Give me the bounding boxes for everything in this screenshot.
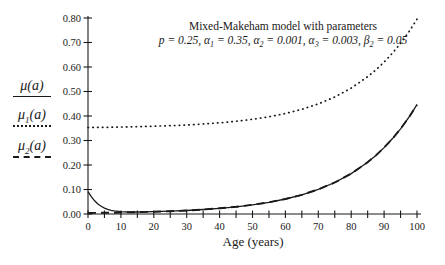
y-tick-label: 0.70 bbox=[63, 37, 81, 48]
legend-label-mu1: μ1(a) bbox=[6, 107, 58, 122]
y-tick-label: 0.30 bbox=[63, 135, 81, 146]
x-tick-label: 100 bbox=[409, 221, 425, 232]
legend-line-dotted bbox=[13, 125, 51, 127]
chart-title: Mixed-Makeham model with parameters bbox=[138, 19, 428, 33]
y-tick-label: 0.40 bbox=[63, 111, 81, 122]
legend-label-mu: μ(a) bbox=[6, 78, 58, 93]
legend-item-mu: μ(a) bbox=[6, 78, 58, 97]
y-tick-label: 0.80 bbox=[63, 13, 81, 24]
y-tick-label: 0.60 bbox=[63, 62, 81, 73]
series-mu2-curve bbox=[88, 105, 417, 213]
chart-title-block: Mixed-Makeham model with parameters p = … bbox=[138, 19, 428, 47]
x-tick-label: 80 bbox=[346, 221, 357, 232]
x-tick-label: 0 bbox=[85, 221, 90, 232]
x-tick-label: 60 bbox=[280, 221, 291, 232]
y-tick-label: 0.00 bbox=[63, 209, 81, 220]
legend-label-mu2: μ2(a) bbox=[6, 138, 58, 153]
x-tick-label: 10 bbox=[116, 221, 127, 232]
legend-item-mu1: μ1(a) bbox=[6, 107, 58, 127]
y-tick-label: 0.20 bbox=[63, 160, 81, 171]
x-tick-label: 90 bbox=[379, 221, 390, 232]
legend-line-dashed bbox=[13, 156, 51, 158]
legend-line-solid bbox=[13, 96, 51, 97]
legend-item-mu2: μ2(a) bbox=[6, 138, 58, 158]
y-tick-label: 0.50 bbox=[63, 86, 81, 97]
x-tick-label: 40 bbox=[214, 221, 225, 232]
chart-subtitle: p = 0.25, α1 = 0.35, α2 = 0.001, α3 = 0.… bbox=[138, 33, 428, 47]
series-mu-curve bbox=[88, 105, 417, 212]
x-tick-label: 30 bbox=[181, 221, 192, 232]
x-axis-label: Age (years) bbox=[88, 234, 418, 250]
x-tick-label: 20 bbox=[149, 221, 160, 232]
chart-figure: 0.000.100.200.300.400.500.600.700.800102… bbox=[0, 0, 445, 265]
x-tick-label: 50 bbox=[247, 221, 258, 232]
y-tick-label: 0.10 bbox=[63, 184, 81, 195]
x-tick-label: 70 bbox=[313, 221, 324, 232]
